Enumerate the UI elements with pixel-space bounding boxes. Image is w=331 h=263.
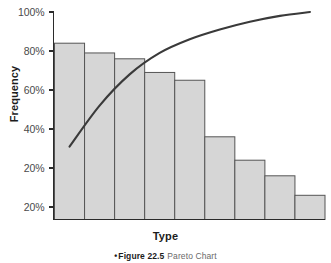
- pareto-chart-svg: 100%80%60%40%20%20%: [0, 0, 331, 232]
- bar-7: [235, 160, 265, 219]
- y-axis-tick-group: 100%80%60%40%20%20%: [18, 6, 53, 213]
- bar-9: [295, 195, 325, 219]
- pareto-chart-figure: 100%80%60%40%20%20% Frequency Type •Figu…: [0, 0, 331, 263]
- figure-caption: •Figure 22.5Pareto Chart: [0, 251, 331, 261]
- y-axis-tick-label: 80%: [24, 45, 45, 57]
- y-axis-tick-label: 20%: [24, 201, 45, 213]
- bar-4: [145, 72, 175, 219]
- bar-5: [175, 80, 205, 219]
- y-axis-title: Frequency: [8, 54, 20, 134]
- y-axis-tick-label: 20%: [24, 162, 45, 174]
- y-axis-tick-label: 40%: [24, 123, 45, 135]
- caption-figure-title: Pareto Chart: [167, 251, 216, 261]
- chart-plot-area: 100%80%60%40%20%20% Frequency: [0, 0, 331, 232]
- y-axis-tick-label: 60%: [24, 84, 45, 96]
- x-axis-title: Type: [0, 230, 331, 242]
- caption-bullet-icon: •: [114, 251, 117, 261]
- bar-6: [205, 137, 235, 220]
- bar-8: [265, 176, 295, 220]
- bar-series-group: [55, 43, 326, 219]
- y-axis-tick-label: 100%: [18, 6, 44, 18]
- bar-2: [85, 53, 115, 220]
- caption-figure-label: Figure 22.5: [118, 251, 164, 261]
